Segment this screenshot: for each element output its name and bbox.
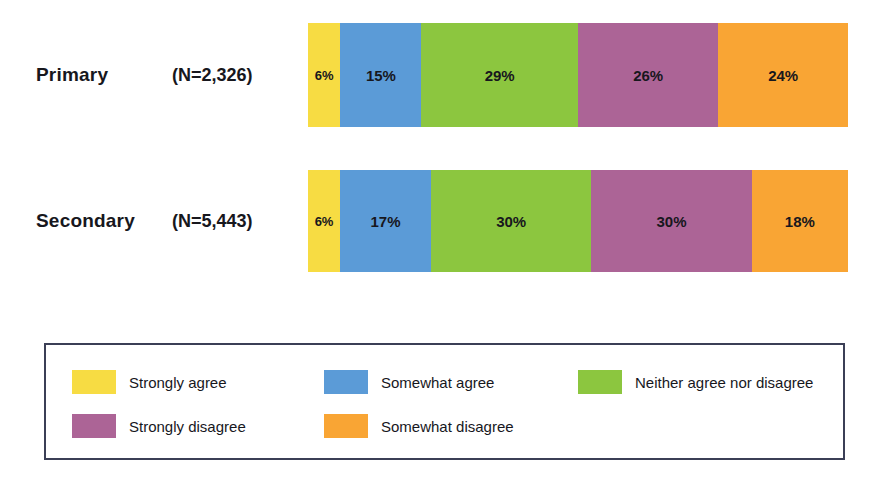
bar-segment-value-label: 17% <box>371 213 401 230</box>
row-label-group-primary: Primary (N=2,326) <box>36 23 304 127</box>
legend-label: Somewhat agree <box>381 374 494 391</box>
legend-swatch-somewhat-disagree-icon <box>324 414 368 438</box>
legend-item-somewhat-agree[interactable]: Somewhat agree <box>324 370 578 394</box>
row-sample-size-label: (N=5,443) <box>172 211 253 232</box>
legend: Strongly agreeSomewhat agreeNeither agre… <box>44 343 845 460</box>
stacked-bar-secondary: 6%17%30%30%18% <box>308 170 848 272</box>
legend-label: Neither agree nor disagree <box>635 374 813 391</box>
bar-segment-value-label: 29% <box>485 67 515 84</box>
bar-segment-strongly-disagree: 26% <box>578 23 718 127</box>
bar-segment-value-label: 30% <box>657 213 687 230</box>
bar-segment-somewhat-disagree: 24% <box>718 23 848 127</box>
bar-segment-value-label: 6% <box>315 214 334 229</box>
row-category-label: Primary <box>36 64 108 86</box>
legend-item-somewhat-disagree[interactable]: Somewhat disagree <box>324 414 578 438</box>
legend-swatch-neither-agree-nor-disagree-icon <box>578 370 622 394</box>
legend-swatch-somewhat-agree-icon <box>324 370 368 394</box>
bar-segment-somewhat-agree: 17% <box>340 170 431 272</box>
bar-row-secondary: Secondary (N=5,443) 6%17%30%30%18% <box>0 170 888 272</box>
legend-label: Strongly disagree <box>129 418 246 435</box>
legend-label: Strongly agree <box>129 374 227 391</box>
row-category-label: Secondary <box>36 210 135 232</box>
bar-segment-value-label: 18% <box>785 213 815 230</box>
bar-segment-somewhat-agree: 15% <box>340 23 421 127</box>
bar-segment-value-label: 26% <box>633 67 663 84</box>
bar-segment-strongly-disagree: 30% <box>591 170 751 272</box>
legend-label: Somewhat disagree <box>381 418 514 435</box>
legend-item-neither-agree-nor-disagree[interactable]: Neither agree nor disagree <box>578 370 832 394</box>
stacked-bar-chart: Primary (N=2,326) 6%15%29%26%24% Seconda… <box>0 0 888 479</box>
stacked-bar-primary: 6%15%29%26%24% <box>308 23 848 127</box>
bar-segment-neither-agree-nor-disagree: 29% <box>421 23 578 127</box>
legend-item-strongly-disagree[interactable]: Strongly disagree <box>72 414 324 438</box>
bar-segment-value-label: 15% <box>366 67 396 84</box>
legend-item-strongly-agree[interactable]: Strongly agree <box>72 370 324 394</box>
legend-grid: Strongly agreeSomewhat agreeNeither agre… <box>72 360 832 448</box>
bar-segment-strongly-agree: 6% <box>308 23 340 127</box>
bar-segment-value-label: 24% <box>768 67 798 84</box>
bar-segment-somewhat-disagree: 18% <box>752 170 848 272</box>
bar-row-primary: Primary (N=2,326) 6%15%29%26%24% <box>0 23 888 127</box>
bar-segment-value-label: 6% <box>315 68 334 83</box>
legend-swatch-strongly-disagree-icon <box>72 414 116 438</box>
row-sample-size-label: (N=2,326) <box>172 65 253 86</box>
row-label-group-secondary: Secondary (N=5,443) <box>36 170 304 272</box>
bar-segment-value-label: 30% <box>496 213 526 230</box>
legend-swatch-strongly-agree-icon <box>72 370 116 394</box>
bar-segment-neither-agree-nor-disagree: 30% <box>431 170 591 272</box>
bar-segment-strongly-agree: 6% <box>308 170 340 272</box>
